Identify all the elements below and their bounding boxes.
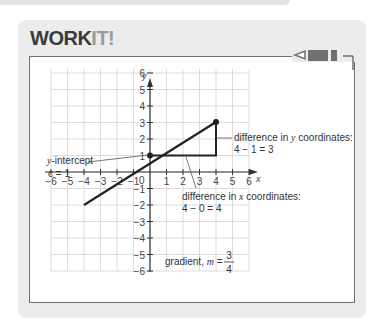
y-tick-label: −4 bbox=[134, 233, 146, 244]
pencil-icon bbox=[295, 50, 353, 70]
gradient-annotation: gradient, m = bbox=[165, 256, 223, 267]
x-tick-label: 3 bbox=[197, 176, 203, 187]
y-axis-arrow-icon bbox=[147, 78, 153, 87]
point-4-4 bbox=[213, 119, 219, 125]
diff-x-annotation: difference in x coordinates: bbox=[182, 191, 301, 202]
x-tick-label: 5 bbox=[230, 176, 236, 187]
graph: −6−5−4−3−2−1123456654321−1−2−3−4−5−6 y x… bbox=[0, 0, 380, 331]
origin-label: 0 bbox=[139, 175, 145, 186]
x-tick-label: 2 bbox=[180, 176, 186, 187]
y-tick-label: 2 bbox=[139, 134, 145, 145]
y-tick-label: −6 bbox=[134, 266, 146, 277]
y-axis-label: y bbox=[141, 71, 147, 81]
point-y-intercept bbox=[147, 153, 153, 159]
y-tick-label: −5 bbox=[134, 250, 146, 261]
gradient-denominator: 4 bbox=[226, 264, 232, 275]
y-intercept-value: c = 1 bbox=[48, 168, 70, 179]
x-tick-label: 6 bbox=[246, 176, 252, 187]
x-tick-label: −4 bbox=[78, 176, 90, 187]
x-tick-label: 4 bbox=[213, 176, 219, 187]
diff-y-annotation: difference in y coordinates: bbox=[234, 132, 353, 143]
y-intercept-annotation: y-intercept bbox=[46, 155, 93, 166]
axes bbox=[45, 84, 252, 272]
x-axis-label: x bbox=[255, 174, 261, 184]
x-tick-label: −3 bbox=[95, 176, 107, 187]
gradient-numerator: 3 bbox=[226, 250, 232, 261]
y-tick-label: 4 bbox=[139, 101, 145, 112]
diff-y-value: 4 − 1 = 3 bbox=[234, 144, 274, 155]
diff-x-value: 4 − 0 = 4 bbox=[182, 203, 222, 214]
y-tick-label: −2 bbox=[134, 200, 146, 211]
x-tick-label: 1 bbox=[164, 176, 170, 187]
y-tick-label: −3 bbox=[134, 217, 146, 228]
y-tick-label: 5 bbox=[139, 85, 145, 96]
y-tick-label: 3 bbox=[139, 118, 145, 129]
